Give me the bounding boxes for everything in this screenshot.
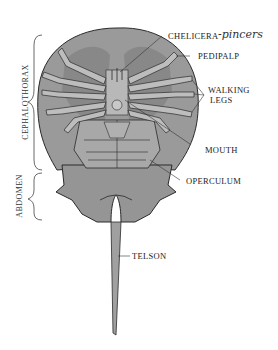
label-walking-legs-2: LEGS: [210, 96, 232, 105]
label-chelicera: CHELICERA: [168, 32, 218, 41]
label-pedipalp: PEDIPALP: [198, 52, 239, 61]
abdomen-bracket: [28, 173, 42, 220]
label-cephalothorax: CEPHALOTHORAX: [22, 64, 30, 139]
label-telson: TELSON: [132, 252, 166, 261]
abdomen-shell: [56, 165, 176, 222]
label-mouth: MOUTH: [205, 146, 238, 155]
label-abdomen: ABDOMEN: [16, 174, 24, 217]
label-chelicera-note: -pincers: [218, 28, 263, 41]
label-operculum: OPERCULUM: [186, 177, 241, 186]
label-walking-legs-1: WALKING: [208, 86, 250, 95]
telson: [111, 222, 121, 335]
